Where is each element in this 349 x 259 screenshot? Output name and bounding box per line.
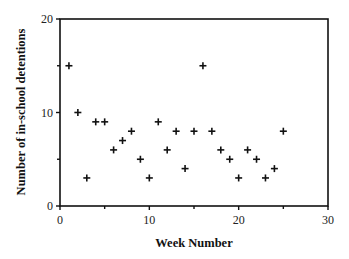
x-tick-label: 20: [233, 213, 245, 227]
data-point: [182, 165, 189, 172]
data-point: [226, 156, 233, 163]
plot-frame: [60, 19, 328, 206]
y-axis-title: Number of in-school detentions: [14, 28, 28, 195]
data-point: [101, 118, 108, 125]
data-point: [173, 128, 180, 135]
data-point: [235, 174, 242, 181]
data-point: [119, 137, 126, 144]
data-point: [65, 62, 72, 69]
data-point: [137, 156, 144, 163]
data-point: [92, 118, 99, 125]
y-tick-label: 10: [41, 106, 53, 120]
data-point: [253, 156, 260, 163]
data-point: [199, 62, 206, 69]
x-axis: 0102030: [57, 206, 334, 227]
data-point: [244, 146, 251, 153]
data-point: [271, 165, 278, 172]
data-point: [146, 174, 153, 181]
x-tick-label: 10: [143, 213, 155, 227]
data-point: [74, 109, 81, 116]
data-point: [155, 118, 162, 125]
data-point: [110, 146, 117, 153]
data-point: [164, 146, 171, 153]
data-point: [208, 128, 215, 135]
scatter-chart: 01020 0102030 Week Number Number of in-s…: [0, 0, 349, 259]
data-point: [262, 174, 269, 181]
y-tick-label: 20: [41, 12, 53, 26]
x-tick-label: 30: [322, 213, 334, 227]
x-tick-label: 0: [57, 213, 63, 227]
data-points: [65, 62, 286, 181]
x-axis-title: Week Number: [155, 236, 233, 250]
data-point: [128, 128, 135, 135]
data-point: [217, 146, 224, 153]
y-axis: 01020: [41, 12, 60, 213]
data-point: [191, 128, 198, 135]
y-tick-label: 0: [47, 199, 53, 213]
data-point: [83, 174, 90, 181]
data-point: [280, 128, 287, 135]
